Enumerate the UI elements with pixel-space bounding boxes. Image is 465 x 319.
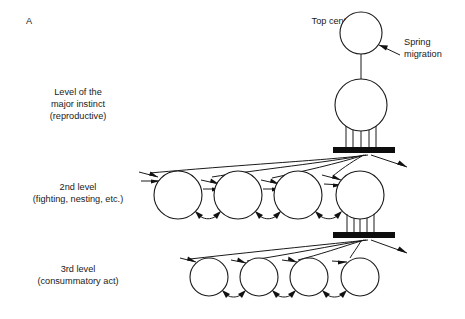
node-second-level-1 [154,171,202,219]
spring-migration-arrow-icon [379,45,400,55]
level-label-line: Level of the [54,87,102,97]
spring-migration-label: Spring migration [404,37,442,59]
input-arrow-third-1 [180,257,196,263]
node-major-instinct [335,79,387,131]
mutual-arrow-second-2-3 [255,211,281,219]
level-label-line: (consummatory act) [37,276,118,286]
node-second-level-3 [274,171,322,219]
upper-block-external-arrow-icon [371,155,407,167]
level-label-line: 2nd level [60,182,97,192]
mutual-arrow-third-3-4 [322,290,347,298]
panel-label: A [26,16,33,26]
lower-block-external-arrow-icon [371,240,407,253]
spring-migration-line: Spring [404,37,431,47]
node-second-level-4 [336,171,384,219]
second-level-mutual-inhibition-arrows [195,211,342,219]
block-lower [333,232,395,238]
input-arrow-third-3 [282,257,297,263]
mutual-arrow-second-1-2 [195,211,221,219]
fan-lower-block-to-third-level [190,240,368,261]
block-upper [333,147,395,153]
third-level-mutual-inhibition-arrows [222,290,347,298]
node-second-level-2 [214,171,262,219]
input-arrow-third-2 [231,258,246,264]
mutual-arrow-second-3-4 [315,211,342,219]
level-label-line: major instinct [51,99,106,109]
level-label-line: 3rd level [61,264,96,274]
mutual-arrow-third-1-2 [222,290,246,298]
level-label-third-level: 3rd level (consummatory act) [37,264,118,286]
input-arrow-third-4 [332,261,347,265]
input-arrow-second-4a [322,175,341,181]
level-label-second-level: 2nd level (fighting, nesting, etc.) [33,182,123,204]
hierarchy-diagram: A Level of the major instinct (reproduct… [0,0,465,319]
input-arrow-second-2a [201,179,219,185]
level-label-line: (reproductive) [50,111,107,121]
node-top-center [340,12,382,54]
level-label-line: (fighting, nesting, etc.) [33,194,123,204]
mutual-arrow-third-2-3 [272,290,296,298]
figure-panel: A Level of the major instinct (reproduct… [0,0,465,319]
input-arrow-second-3a [261,179,279,185]
spring-migration-line: migration [404,49,442,59]
level-label-major-instinct: Level of the major instinct (reproductiv… [50,87,107,121]
